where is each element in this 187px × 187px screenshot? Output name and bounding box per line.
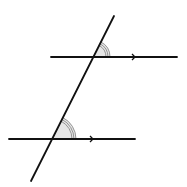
parallel-lines xyxy=(9,54,177,142)
parallel-lines-diagram xyxy=(0,0,187,187)
transversal-line xyxy=(31,16,114,181)
upper-parallel-line xyxy=(51,54,177,60)
